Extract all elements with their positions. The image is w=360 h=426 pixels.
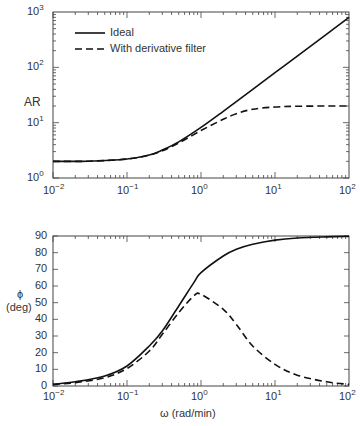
ar-y-tick-label: 101	[27, 114, 44, 128]
phase-y-tick-label: 50	[35, 296, 47, 308]
phase-y-tick-label: 70	[35, 262, 47, 274]
phase-x-tick-label: 10−1	[117, 388, 138, 402]
bode-plot	[0, 0, 360, 426]
ar-x-tick-label: 10−1	[117, 182, 138, 196]
ar-y-tick-label: 100	[27, 169, 44, 183]
phase-y-tick-label: 80	[35, 246, 47, 258]
ar-x-tick-label: 102	[339, 182, 356, 196]
ar-x-tick-label: 100	[191, 182, 208, 196]
phase-y-tick-label: 40	[35, 312, 47, 324]
ar-filter-curve	[53, 106, 349, 161]
ar-y-tick-label: 103	[27, 3, 44, 17]
phase-y-tick-label: 90	[35, 229, 47, 241]
legend-ideal-label: Ideal	[110, 26, 134, 38]
bottom-plot-frame	[53, 236, 349, 386]
ar-x-tick-label: 10−2	[43, 182, 64, 196]
phase-x-tick-label: 100	[191, 388, 208, 402]
ar-y-tick-label: 102	[27, 58, 44, 72]
phase-filter-curve	[53, 293, 349, 384]
phase-y-tick-label: 10	[35, 362, 47, 374]
phi-symbol: ϕ	[17, 288, 23, 300]
phase-x-tick-label: 10−2	[43, 388, 64, 402]
phase-ideal-curve	[53, 236, 349, 384]
legend-filter-label: With derivative filter	[110, 42, 206, 54]
top-plot-frame	[53, 12, 349, 178]
phase-y-tick-label: 60	[35, 279, 47, 291]
phase-y-tick-label: 20	[35, 346, 47, 358]
ar-x-tick-label: 101	[265, 182, 282, 196]
ar-axis-label: AR	[24, 95, 41, 109]
phase-x-tick-label: 101	[265, 388, 282, 402]
phase-y-tick-label: 30	[35, 329, 47, 341]
ar-ideal-curve	[53, 17, 349, 161]
phase-x-tick-label: 102	[339, 388, 356, 402]
omega-axis-label: ω (rad/min)	[160, 407, 216, 419]
deg-unit-label: (deg)	[6, 301, 32, 313]
